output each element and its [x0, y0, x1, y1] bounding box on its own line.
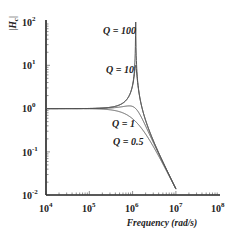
curve-100: [46, 22, 176, 189]
x-tick-1e8: 108: [211, 201, 225, 214]
x-tick-1e6: 106: [125, 201, 139, 214]
curves: [46, 22, 176, 189]
y-tick-100: 102: [22, 15, 36, 28]
x-tick-1e7: 107: [169, 201, 183, 214]
curve-10: [46, 65, 176, 188]
y-tick-10: 101: [22, 58, 36, 71]
y-tick-0.01: 10-2: [22, 188, 38, 201]
y-axis-title: |Hc|: [8, 16, 20, 31]
label-q100: Q = 100: [103, 25, 136, 36]
y-tick-0.1: 10-1: [22, 145, 38, 158]
label-q05: Q = 0.5: [113, 136, 143, 147]
bode-magnitude-chart: 102 101 100 10-1 10-2 104 105 106 107 10…: [0, 0, 242, 233]
x-tick-1e5: 105: [82, 201, 96, 214]
label-q1: Q = 1: [112, 118, 135, 129]
y-tick-1: 100: [22, 101, 36, 114]
curve-labels: Q = 100 Q = 10 Q = 1 Q = 0.5: [103, 25, 143, 147]
x-tick-labels: 104 105 106 107 108: [39, 201, 225, 214]
label-q10: Q = 10: [106, 64, 134, 75]
x-tick-1e4: 104: [39, 201, 53, 214]
axes: [46, 20, 220, 195]
x-axis-title: Frequency (rad/s): [126, 218, 197, 229]
y-tick-labels: 102 101 100 10-1 10-2: [22, 15, 38, 201]
